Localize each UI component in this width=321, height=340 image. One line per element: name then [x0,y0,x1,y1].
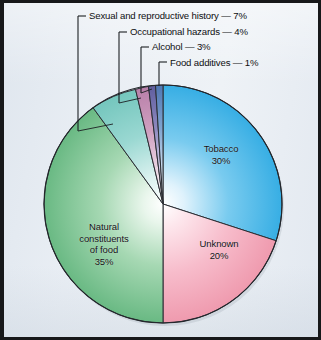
callout-label-alcohol: Alcohol — 3% [152,41,210,52]
callout-label-sexual-reproductive-history: Sexual and reproductive history — 7% [89,10,247,21]
callout-label-food-additives: Food additives — 1% [170,57,258,68]
figure-root: Sexual and reproductive history — 7% Occ… [0,0,321,340]
slice-label-unknown: Unknown 20% [182,238,256,261]
leader-line-food-additives [159,62,167,86]
slice-label-natural-constituents-of-food: Natural constituents of food 35% [62,221,146,267]
slice-label-tobacco: Tobacco 30% [184,143,258,166]
callout-label-occupational-hazards: Occupational hazards — 4% [130,26,248,37]
